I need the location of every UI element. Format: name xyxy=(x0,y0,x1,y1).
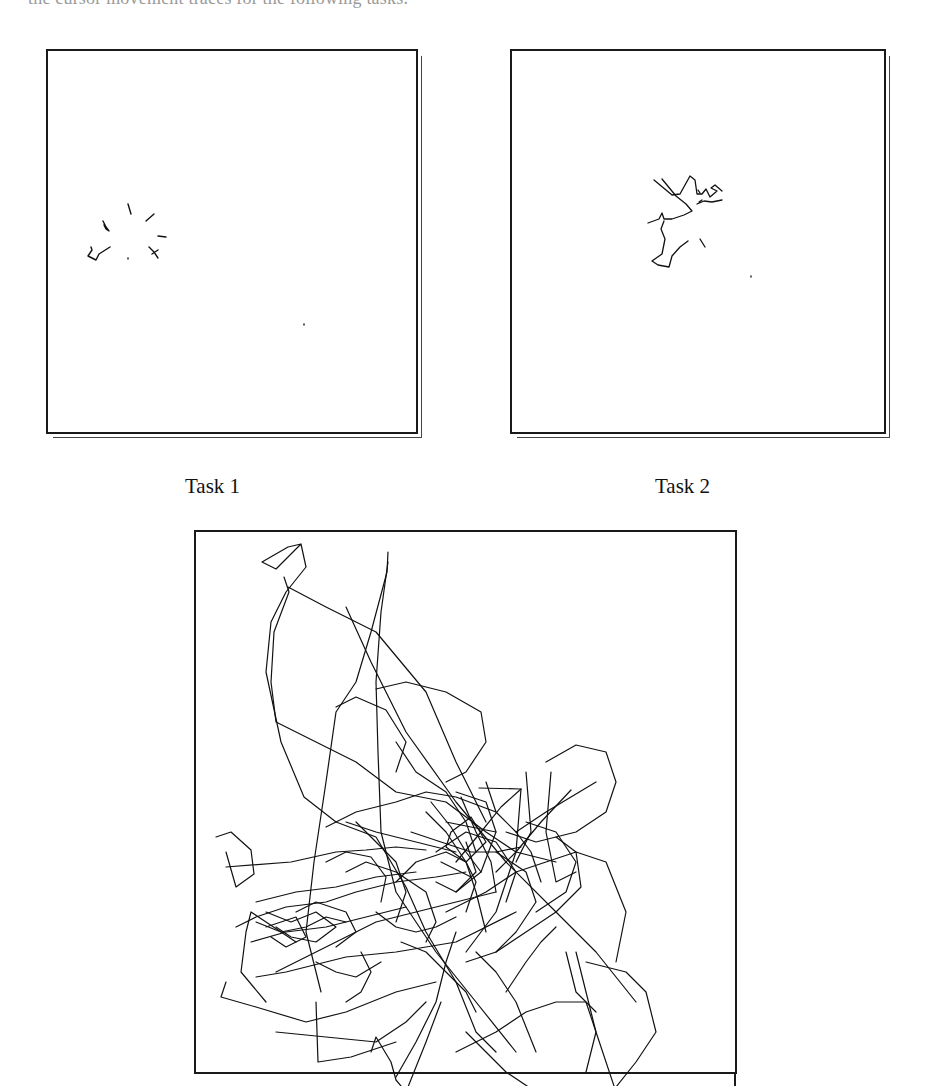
cursor-path-segment xyxy=(346,952,371,1002)
cursor-path-segment xyxy=(456,1002,596,1072)
task1-label: Task 1 xyxy=(185,474,240,499)
task3-trace-panel xyxy=(194,530,737,1074)
task3-cursor-trace xyxy=(196,532,739,1076)
cursor-path-segment xyxy=(276,1002,426,1042)
cursor-path-segment xyxy=(241,912,296,1002)
cursor-path-segment xyxy=(426,812,486,932)
task2-trace-panel xyxy=(510,49,886,434)
cursor-path-segment xyxy=(466,962,656,1086)
cursor-path-segment xyxy=(546,772,576,882)
clipped-caption-text: the cursor movement traces for the follo… xyxy=(28,0,408,9)
cursor-path-segment xyxy=(216,832,254,887)
cursor-path-segment xyxy=(396,932,456,1077)
cursor-path-segment xyxy=(356,822,406,922)
task2-cursor-trace xyxy=(512,51,888,436)
cursor-path-segment xyxy=(506,927,556,992)
cursor-path-segment xyxy=(316,1002,396,1062)
cursor-path-segment xyxy=(700,239,705,247)
cursor-path-segment xyxy=(566,952,596,1012)
cursor-path-segment xyxy=(576,952,616,1086)
cursor-path-segment xyxy=(128,204,131,214)
cursor-path-segment xyxy=(103,221,109,231)
cursor-path-segment xyxy=(652,221,688,267)
task1-trace-panel xyxy=(46,49,418,434)
cursor-path-segment xyxy=(697,200,722,204)
cursor-path-segment xyxy=(346,607,636,1002)
cursor-path-segment xyxy=(376,562,516,1052)
cursor-path-segment xyxy=(466,788,521,952)
cursor-path-segment xyxy=(436,842,476,892)
cursor-path-segment xyxy=(149,247,158,258)
cursor-path-segment xyxy=(526,822,576,912)
cursor-path-segment xyxy=(654,176,722,197)
cursor-path-segment xyxy=(88,247,110,260)
cursor-path-segment xyxy=(371,1002,441,1086)
cursor-path-segment xyxy=(396,742,476,852)
cursor-path-segment xyxy=(288,587,486,822)
cursor-path-segment xyxy=(226,847,426,867)
cursor-path-segment xyxy=(146,214,154,221)
task2-label: Task 2 xyxy=(655,474,710,499)
cursor-path-segment xyxy=(316,962,381,977)
cursor-path-segment xyxy=(221,982,436,1022)
task1-cursor-trace xyxy=(48,51,420,436)
cursor-path-segment xyxy=(256,912,516,977)
cursor-path-segment xyxy=(236,872,466,927)
cursor-path-segment xyxy=(336,697,406,772)
cursor-path-segment xyxy=(271,577,556,862)
cursor-path-segment xyxy=(698,190,700,193)
cursor-path-segment xyxy=(158,236,166,237)
